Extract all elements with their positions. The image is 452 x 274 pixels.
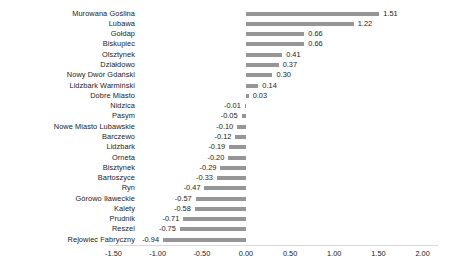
bar — [246, 63, 279, 67]
bar — [183, 217, 246, 221]
bar-row: Nowy Dwór Gdański0.30 — [0, 70, 452, 80]
bar-value-label: -0.19 — [208, 142, 225, 152]
category-label: Murowana Goślina — [0, 9, 135, 19]
bar-row: Działdowo0.37 — [0, 60, 452, 70]
x-tick-label: 1.00 — [314, 248, 354, 260]
bar-value-label: 0.30 — [276, 70, 290, 80]
x-tick-label: -1.00 — [138, 248, 178, 260]
category-label: Biskupiec — [0, 39, 135, 49]
category-label: Reszel — [0, 224, 135, 234]
category-label: Działdowo — [0, 60, 135, 70]
bar-row: Gołdap0.66 — [0, 29, 452, 39]
bar — [242, 114, 246, 118]
bar-value-label: -0.47 — [184, 183, 201, 193]
bar-value-label: 0.03 — [253, 91, 267, 101]
category-label: Nowy Dwór Gdański — [0, 70, 135, 80]
category-label: Rejowiec Fabryczny — [0, 235, 135, 245]
bar — [217, 176, 246, 180]
category-label: Olsztynek — [0, 50, 135, 60]
bar-value-label: 0.14 — [262, 81, 276, 91]
category-label: Nowe Miasto Lubawskie — [0, 122, 135, 132]
bar-row: Pasym-0.05 — [0, 111, 452, 121]
bar — [163, 238, 246, 242]
bar — [237, 125, 246, 129]
bar-value-label: -0.29 — [200, 163, 217, 173]
bar-row: Lubawa1.22 — [0, 19, 452, 29]
bar-row: Bartoszyce-0.33 — [0, 173, 452, 183]
x-tick-label: 0.00 — [226, 248, 266, 260]
bar-value-label: -0.20 — [207, 153, 224, 163]
bar-row: Olsztynek0.41 — [0, 50, 452, 60]
bar — [195, 207, 246, 211]
bar-value-label: 0.37 — [283, 60, 297, 70]
bar-row: Ryn-0.47 — [0, 183, 452, 193]
bar — [246, 12, 379, 16]
bar — [246, 53, 282, 57]
category-label: Gołdap — [0, 29, 135, 39]
category-label: Lidzbark — [0, 142, 135, 152]
bar — [246, 32, 304, 36]
bar — [235, 135, 246, 139]
category-label: Barczewo — [0, 132, 135, 142]
category-label: Kalety — [0, 204, 135, 214]
bar-value-label: -0.10 — [216, 122, 233, 132]
bar — [246, 22, 354, 26]
bar-value-label: 0.41 — [286, 50, 300, 60]
bar-row: Bisztynek-0.29 — [0, 163, 452, 173]
category-label: Lidzbark Warmiński — [0, 81, 135, 91]
bar-value-label: -0.94 — [142, 235, 159, 245]
x-tick-label: 0.50 — [270, 248, 310, 260]
bar-chart: Murowana Goślina1.51Lubawa1.22Gołdap0.66… — [0, 0, 452, 274]
bar — [246, 94, 249, 98]
bar-row: Rejowiec Fabryczny-0.94 — [0, 235, 452, 245]
bar-value-label: 1.22 — [358, 19, 372, 29]
bar — [246, 84, 258, 88]
category-label: Nidzica — [0, 101, 135, 111]
bar — [245, 104, 246, 108]
bar-row: Lidzbark-0.19 — [0, 142, 452, 152]
bar-value-label: 1.51 — [383, 9, 397, 19]
category-label: Lubawa — [0, 19, 135, 29]
bar-row: Nidzica-0.01 — [0, 101, 452, 111]
x-tick-label: -1.50 — [94, 248, 134, 260]
category-label: Bisztynek — [0, 163, 135, 173]
x-tick-label: 2.00 — [403, 248, 443, 260]
category-label: Górowo Iławeckie — [0, 194, 135, 204]
bar-value-label: -0.12 — [215, 132, 232, 142]
bar-row: Reszel-0.75 — [0, 224, 452, 234]
bar-value-label: 0.66 — [308, 39, 322, 49]
bar-value-label: -0.05 — [221, 111, 238, 121]
category-label: Ryn — [0, 183, 135, 193]
bar-value-label: -0.71 — [162, 214, 179, 224]
bar — [204, 186, 246, 190]
bar-value-label: -0.01 — [224, 101, 241, 111]
bar-row: Barczewo-0.12 — [0, 132, 452, 142]
bar-value-label: -0.33 — [196, 173, 213, 183]
x-tick-label: 1.50 — [358, 248, 398, 260]
bar-row: Orneta-0.20 — [0, 153, 452, 163]
x-axis-tick-labels: -1.50-1.00-0.500.000.501.001.502.00 — [0, 248, 452, 262]
category-label: Prudnik — [0, 214, 135, 224]
x-tick-label: -0.50 — [182, 248, 222, 260]
bar-value-label: -0.58 — [174, 204, 191, 214]
bar-row: Nowe Miasto Lubawskie-0.10 — [0, 122, 452, 132]
bar-value-label: 0.66 — [308, 29, 322, 39]
bar — [229, 145, 246, 149]
bar-row: Prudnik-0.71 — [0, 214, 452, 224]
bar — [180, 227, 246, 231]
bar — [196, 197, 246, 201]
bar-row: Dobre Miasto0.03 — [0, 91, 452, 101]
bar — [228, 156, 246, 160]
category-label: Orneta — [0, 153, 135, 163]
bar — [246, 73, 272, 77]
bar-row: Lidzbark Warmiński0.14 — [0, 81, 452, 91]
category-label: Pasym — [0, 111, 135, 121]
bar-row: Kalety-0.58 — [0, 204, 452, 214]
bar-value-label: -0.75 — [159, 224, 176, 234]
category-label: Dobre Miasto — [0, 91, 135, 101]
bar-row: Górowo Iławeckie-0.57 — [0, 194, 452, 204]
x-axis-line — [108, 245, 438, 246]
bar-row: Murowana Goślina1.51 — [0, 9, 452, 19]
bar — [220, 166, 246, 170]
category-label: Bartoszyce — [0, 173, 135, 183]
